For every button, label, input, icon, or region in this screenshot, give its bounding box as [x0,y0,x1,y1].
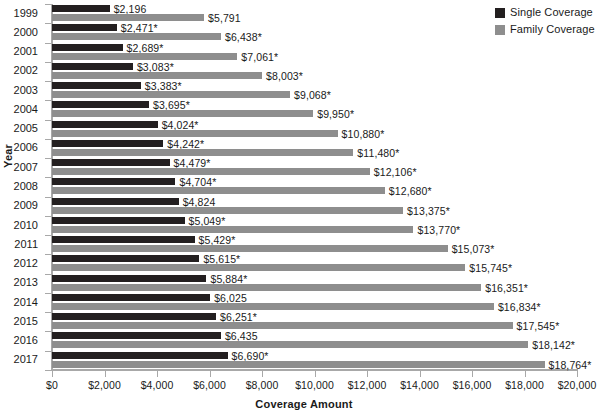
bar-group: $6,690*$18,764* [52,351,577,370]
bar-single-coverage: $5,615* [52,255,199,262]
bar-value-label: $18,142* [532,340,575,351]
bar-family-coverage: $9,068* [52,91,290,98]
bar-family-coverage: $13,375* [52,207,403,214]
bar-value-label: $5,429* [199,235,236,246]
bar-value-label: $10,880* [342,129,385,140]
bar-family-coverage: $7,061* [52,53,237,60]
bar-group: $2,471*$6,438* [52,23,577,42]
y-axis-tick [45,43,52,44]
bar-family-coverage: $10,880* [52,130,338,137]
plot-area: $2,196$5,791$2,471*$6,438*$2,689*$7,061*… [52,4,577,370]
y-axis-tick [45,4,52,5]
y-axis-tick [45,274,52,275]
bar-chart: Single Coverage Family Coverage Year 199… [0,0,608,418]
bar-family-coverage: $16,834* [52,303,494,310]
x-axis-tick [525,371,526,377]
bar-value-label: $4,704* [179,177,216,188]
y-axis-tick [45,216,52,217]
bar-family-coverage: $11,480* [52,149,353,156]
bar-group: $5,615*$15,745* [52,254,577,273]
bar-family-coverage: $18,142* [52,341,528,348]
bar-single-coverage: $5,429* [52,236,195,243]
y-axis-tick-label: 2001 [14,46,38,57]
x-axis-tick-label: $4,000 [141,380,174,391]
bar-group: $6,025$16,834* [52,293,577,312]
x-axis-tick [472,371,473,377]
bar-value-label: $12,106* [374,167,417,178]
y-axis-tick-label: 2009 [14,200,38,211]
y-axis-tick [45,139,52,140]
y-axis-tick-label: 2016 [14,335,38,346]
y-axis-tick-labels: 1999200020012002200320042005200620072008… [0,4,44,370]
x-axis-tick [420,371,421,377]
bar-single-coverage: $6,690* [52,352,228,359]
bar-single-coverage: $4,242* [52,140,163,147]
bar-value-label: $16,834* [498,302,541,313]
x-axis-tick [315,371,316,377]
y-axis-tick-label: 2015 [14,316,38,327]
bar-value-label: $9,068* [294,90,331,101]
y-axis-tick-label: 2017 [14,354,38,365]
bar-single-coverage: $5,049* [52,217,185,224]
bar-group: $4,024*$10,880* [52,120,577,139]
bar-value-label: $18,764* [549,360,592,371]
x-axis-tick-label: $18,000 [505,380,544,391]
bar-value-label: $9,950* [317,109,354,120]
bar-family-coverage: $6,438* [52,33,221,40]
bar-value-label: $6,690* [232,351,269,362]
bar-value-label: $15,745* [469,263,512,274]
bar-group: $2,196$5,791 [52,4,577,23]
bar-value-label: $6,438* [225,32,262,43]
bar-value-label: $13,375* [407,206,450,217]
x-axis-tick [262,371,263,377]
bar-family-coverage: $18,764* [52,361,545,368]
bar-single-coverage: $2,471* [52,24,117,31]
y-axis-tick [45,197,52,198]
bar-group: $5,049*$13,770* [52,216,577,235]
bar-family-coverage: $16,351* [52,284,481,291]
bar-group: $5,884*$16,351* [52,274,577,293]
bar-value-label: $16,351* [485,283,528,294]
y-axis-tick [45,293,52,294]
bar-value-label: $6,251* [220,312,257,323]
y-axis-tick-label: 1999 [14,8,38,19]
bar-group: $2,689*$7,061* [52,43,577,62]
bar-group: $4,479*$12,106* [52,158,577,177]
bar-value-label: $4,479* [174,158,211,169]
bar-value-label: $5,884* [210,274,247,285]
bar-single-coverage: $4,704* [52,178,175,185]
bar-family-coverage: $15,745* [52,264,465,271]
bar-group: $3,695*$9,950* [52,100,577,119]
x-axis-tick-label: $0 [46,380,58,391]
bar-value-label: $7,061* [241,52,278,63]
bar-single-coverage: $4,024* [52,121,158,128]
bar-group: $4,824$13,375* [52,197,577,216]
bar-group: $5,429*$15,073* [52,235,577,254]
y-axis-tick-label: 2013 [14,277,38,288]
bar-single-coverage: $2,196 [52,5,110,12]
bar-single-coverage: $3,083* [52,63,133,70]
y-axis-tick-label: 2002 [14,65,38,76]
bar-value-label: $8,003* [266,71,303,82]
bar-single-coverage: $4,824 [52,198,179,205]
bar-value-label: $11,480* [357,148,399,159]
bar-value-label: $3,083* [137,62,174,73]
bar-value-label: $3,695* [153,100,190,111]
bar-family-coverage: $17,545* [52,322,513,329]
bar-value-label: $2,471* [121,23,158,34]
y-axis-tick [45,120,52,121]
y-axis-tick [45,331,52,332]
bar-single-coverage: $6,435 [52,332,221,339]
bar-value-label: $2,689* [127,43,164,54]
x-axis-tick [577,371,578,377]
bar-value-label: $6,435 [225,331,258,342]
y-axis-tick [45,62,52,63]
bar-family-coverage: $9,950* [52,110,313,117]
x-axis-tick-label: $16,000 [453,380,492,391]
x-axis-tick-label: $8,000 [246,380,279,391]
bar-family-coverage: $15,073* [52,245,448,252]
x-axis-title: Coverage Amount [0,398,608,410]
bar-group: $4,242*$11,480* [52,139,577,158]
x-axis-tick [52,371,53,377]
bar-value-label: $12,680* [389,186,432,197]
